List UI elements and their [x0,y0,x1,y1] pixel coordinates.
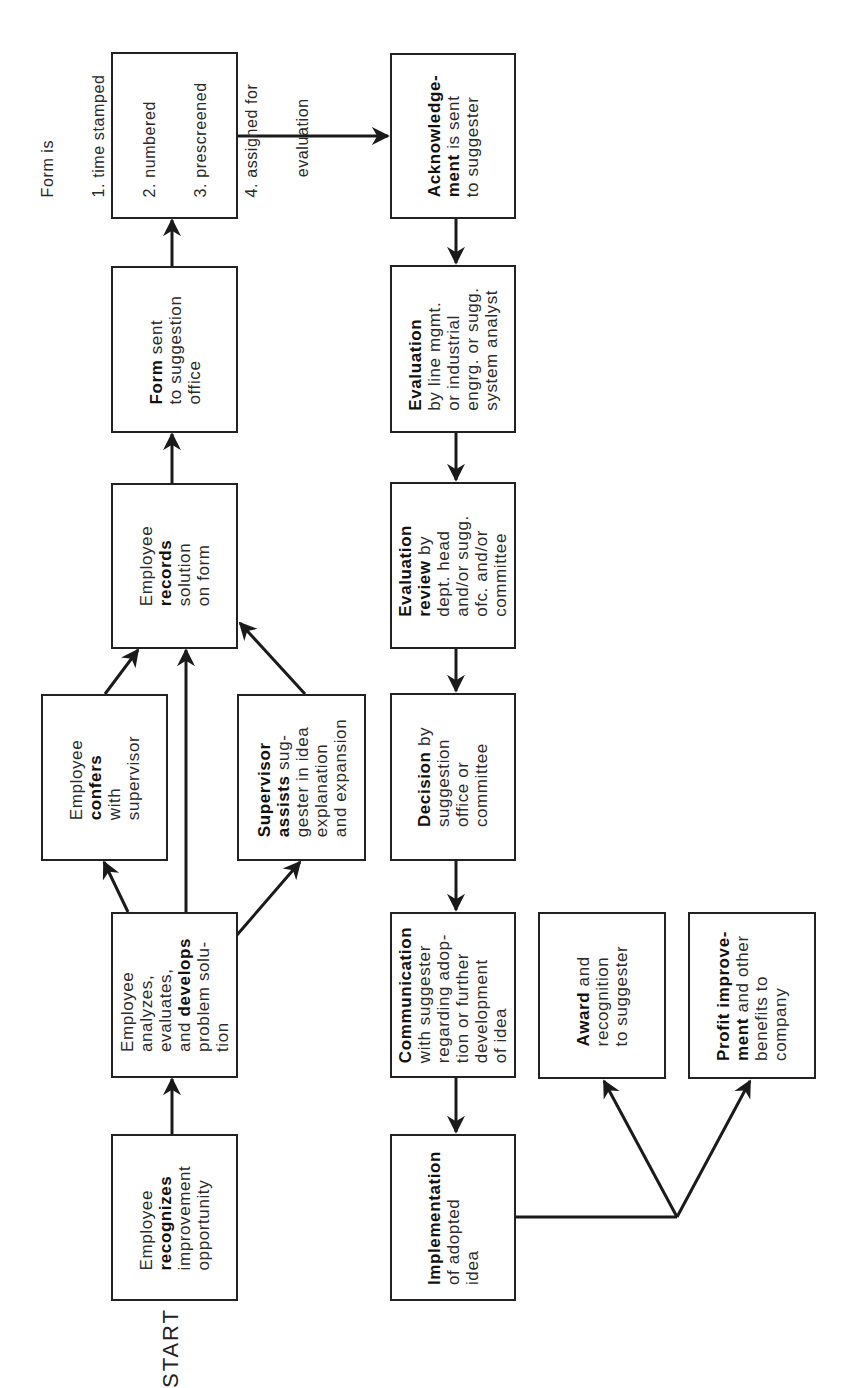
node-text: Supervisor assists sug- gester in idea e… [254,718,349,836]
node-text: Profit improve- ment and other benefits … [714,931,790,1061]
node-acknowledgement: Acknowledge- ment is sent to suggester [390,53,516,219]
node-supervisor-assists: Supervisor assists sug- gester in idea e… [237,694,366,861]
start-label: START [156,1318,186,1378]
node-communication: Communication with suggester regarding a… [390,912,516,1078]
node-implementation: Implementation of adopted idea [390,1134,516,1301]
node-form-sent: Form sent to suggestion office [111,266,238,433]
node-text: Decision by suggestion office or committ… [415,727,491,827]
node-text: Form sent to suggestion office [146,295,203,404]
node-records: Employee records solution on form [111,483,238,649]
node-recognizes: Employee recognizes improvement opportun… [111,1134,238,1301]
node-award: Award and recognition to suggester [538,912,666,1079]
node-text: Implementation of adopted idea [425,1150,482,1284]
node-decision: Decision by suggestion office or committ… [390,693,516,861]
node-text: Form is 1. time stamped 2. numbered 3. p… [5,74,345,197]
node-profit: Profit improve- ment and other benefits … [688,912,816,1079]
node-analyzes: Employee analyzes, evaluates, and develo… [111,912,238,1078]
node-text: Employee analyzes, evaluates, and develo… [118,938,232,1052]
node-text: Evaluation by line mgmt. or industrial e… [406,287,501,410]
node-text: Acknowledge- ment is sent to suggester [425,75,482,197]
node-text: Award and recognition to suggester [574,945,631,1046]
node-text: Employee confers with supervisor [67,735,143,819]
node-evaluation-review: Evaluation review by dept. head and/or s… [390,482,516,649]
arrow-analyzes-to-supervisor [237,862,300,935]
arrow-junction-to-profit [677,1081,750,1217]
node-confers: Employee confers with supervisor [41,694,168,861]
arrow-supervisor-to-records [240,623,305,694]
node-text: Employee records solution on form [137,526,213,606]
node-text: Employee recognizes improvement opportun… [137,1165,213,1270]
node-evaluation: Evaluation by line mgmt. or industrial e… [390,265,516,433]
node-form-is: Form is 1. time stamped 2. numbered 3. p… [111,52,238,219]
arrow-confers-to-records [105,650,138,694]
node-text: Evaluation review by dept. head and/or s… [396,515,510,617]
arrow-junction-to-award [604,1081,677,1217]
node-text: Communication with suggester regarding a… [396,927,510,1063]
arrow-analyzes-to-confers [104,862,128,912]
